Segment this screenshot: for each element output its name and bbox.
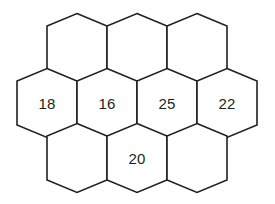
hexagon-figure: 1816252220 (0, 0, 275, 204)
hexagon-label-middle-2: 16 (98, 95, 115, 112)
hexagon-cell-bottom-right (167, 124, 227, 193)
hexagon-label-bottom-center: 20 (128, 150, 145, 167)
hexagon-label-middle-4: 22 (218, 95, 235, 112)
hexagon-label-middle-3: 25 (158, 95, 175, 112)
hexagon-cell-bottom-left (47, 124, 107, 193)
hexagon-label-middle-1: 18 (38, 95, 55, 112)
hexagon-grid: 1816252220 (0, 0, 275, 204)
